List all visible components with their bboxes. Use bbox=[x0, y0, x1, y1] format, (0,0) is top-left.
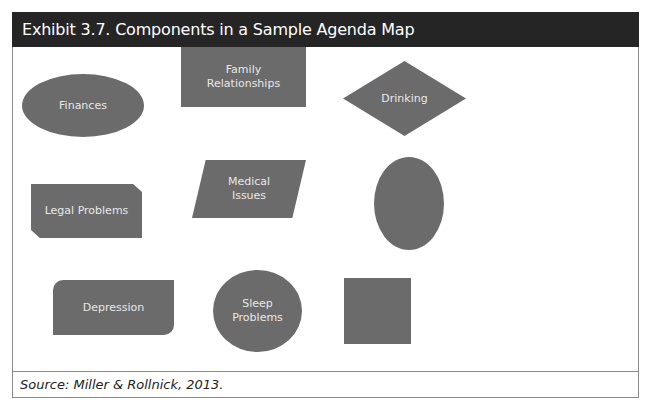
shape-label: Family Relationships bbox=[199, 63, 289, 91]
shape-label: Medical Issues bbox=[224, 175, 274, 203]
shape-legal-snipped-rectangle: Legal Problems bbox=[31, 184, 142, 238]
source-divider bbox=[12, 371, 639, 372]
shape-medical-parallelogram: Medical Issues bbox=[192, 160, 306, 218]
source-citation: Source: Miller & Rollnick, 2013. bbox=[20, 377, 223, 392]
shape-label: Finances bbox=[59, 99, 107, 113]
exhibit-title: Exhibit 3.7. Components in a Sample Agen… bbox=[22, 20, 414, 39]
shape-label: Depression bbox=[83, 301, 145, 315]
shape-family-rectangle: Family Relationships bbox=[181, 47, 306, 107]
shape-label: Legal Problems bbox=[45, 204, 129, 218]
shape-label: Sleep Problems bbox=[228, 297, 288, 325]
shape-sleep-circle: Sleep Problems bbox=[213, 270, 302, 352]
shape-finances-ellipse: Finances bbox=[22, 74, 144, 137]
shape-blank-oval bbox=[374, 157, 444, 250]
shape-blank-square bbox=[344, 278, 411, 344]
shape-label: Drinking bbox=[381, 92, 427, 106]
exhibit-header: Exhibit 3.7. Components in a Sample Agen… bbox=[12, 12, 639, 47]
shape-depression-rounded-rectangle: Depression bbox=[53, 280, 174, 335]
